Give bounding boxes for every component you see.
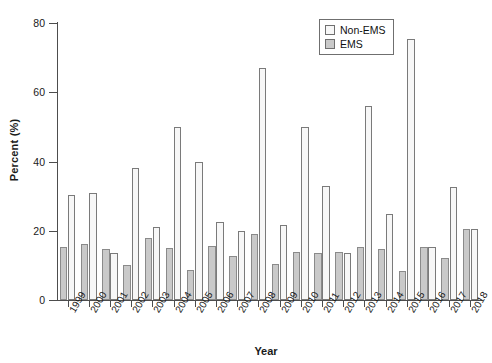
bar-ems-2003 [145, 238, 153, 300]
x-axis-label: Year [56, 345, 476, 357]
bar-non-ems-1999 [68, 195, 76, 300]
bar-non-ems-2011 [322, 186, 330, 300]
y-tick [49, 92, 57, 93]
bar-non-ems-2004 [174, 127, 182, 300]
y-tick [49, 231, 57, 232]
y-tick-label: 40 [5, 156, 45, 168]
legend-label-non-ems: Non-EMS [340, 24, 386, 36]
y-tick [49, 300, 57, 301]
bar-ems-2018 [463, 229, 471, 300]
chart-figure: Percent (%) 020406080 199920002001200220… [0, 0, 492, 363]
legend-item-ems: EMS [325, 37, 386, 51]
legend-swatch-non-ems-icon [325, 25, 335, 35]
y-tick-label: 20 [5, 225, 45, 237]
bar-non-ems-2010 [301, 127, 309, 300]
y-tick-label: 60 [5, 86, 45, 98]
bar-non-ems-2009 [280, 225, 288, 300]
bar-non-ems-2008 [259, 68, 267, 300]
bar-non-ems-2017 [450, 187, 458, 300]
y-axis-label-text: Percent (%) [8, 119, 20, 182]
y-tick [49, 162, 57, 163]
bar-non-ems-2014 [386, 214, 394, 300]
y-tick-label: 80 [5, 17, 45, 29]
bar-ems-2008 [251, 234, 259, 300]
bar-non-ems-2013 [365, 106, 373, 300]
bar-non-ems-2005 [195, 162, 203, 301]
bar-non-ems-2016 [428, 247, 436, 300]
bar-non-ems-2000 [89, 193, 97, 300]
plot-area [57, 23, 481, 300]
bar-non-ems-2007 [238, 231, 246, 300]
chart-legend: Non-EMS EMS [319, 19, 394, 55]
bar-ems-1999 [60, 247, 68, 300]
y-tick-label: 0 [5, 294, 45, 306]
y-tick [49, 23, 57, 24]
bar-non-ems-2002 [132, 168, 140, 300]
legend-label-ems: EMS [340, 38, 363, 50]
bar-non-ems-2003 [153, 227, 161, 300]
y-axis-label: Percent (%) [2, 0, 26, 300]
bar-non-ems-2018 [471, 229, 479, 300]
bar-non-ems-2006 [216, 222, 224, 300]
bar-non-ems-2015 [407, 39, 415, 300]
legend-item-non-ems: Non-EMS [325, 23, 386, 37]
legend-swatch-ems-icon [325, 39, 335, 49]
